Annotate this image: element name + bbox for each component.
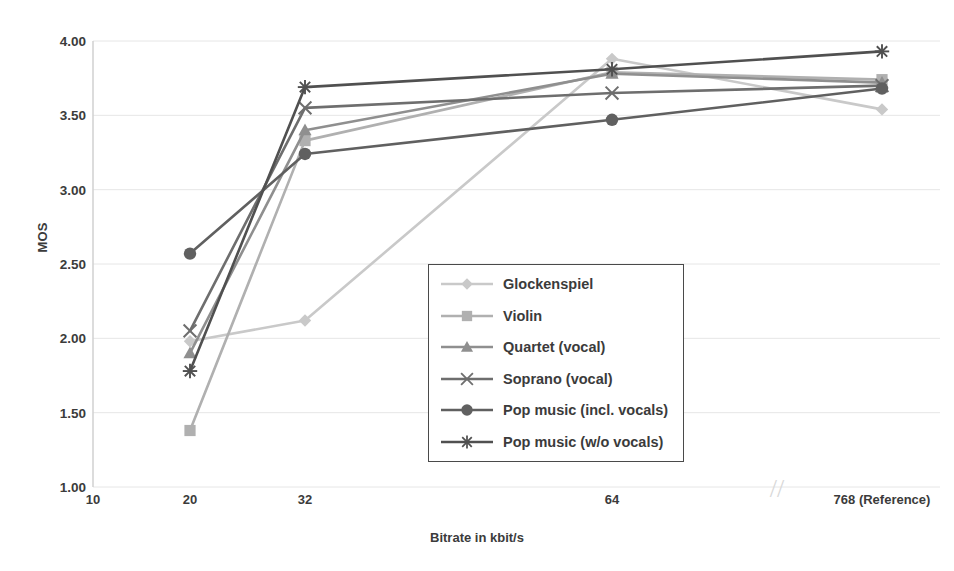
data-point-circle-marker	[606, 114, 618, 126]
axis-break-icon: //	[770, 474, 785, 503]
y-axis-tick-label: 2.50	[34, 257, 86, 272]
legend-item[interactable]: Glockenspiel	[439, 271, 593, 297]
y-axis-tick-label: 1.00	[34, 480, 86, 495]
legend-item-label: Violin	[503, 308, 542, 324]
legend-circle-icon	[439, 401, 495, 419]
y-axis-tick-label: 3.50	[34, 108, 86, 123]
data-point-asterisk-marker	[875, 44, 889, 58]
legend-item-label: Soprano (vocal)	[503, 371, 613, 387]
series-line	[184, 82, 888, 259]
data-point-diamond-marker	[876, 103, 888, 115]
x-axis-title: Bitrate in kbit/s	[0, 530, 954, 545]
x-axis-tick-label: 10	[86, 492, 100, 507]
data-point-circle-marker	[876, 82, 888, 94]
legend-triangle-icon	[439, 338, 495, 356]
legend-item-label: Pop music (w/o vocals)	[503, 434, 663, 450]
x-axis-tick-label: 32	[298, 492, 312, 507]
data-point-diamond-marker	[461, 278, 472, 289]
legend-item-label: Pop music (incl. vocals)	[503, 402, 668, 418]
y-axis-tick-label: 1.50	[34, 405, 86, 420]
legend-item[interactable]: Pop music (incl. vocals)	[439, 397, 668, 423]
legend-x-icon	[439, 370, 495, 388]
chart-legend: GlockenspielViolinQuartet (vocal)Soprano…	[428, 264, 684, 462]
data-point-asterisk-marker	[298, 80, 312, 94]
data-point-asterisk-marker	[183, 364, 197, 378]
legend-item[interactable]: Pop music (w/o vocals)	[439, 429, 663, 455]
chart-container: // MOS 1.001.502.002.503.003.504.00 1020…	[0, 0, 954, 571]
data-point-circle-marker	[299, 148, 311, 160]
legend-square-icon	[439, 307, 495, 325]
x-axis-tick-label: 768 (Reference)	[834, 492, 931, 507]
legend-asterisk-icon	[439, 433, 495, 451]
data-point-asterisk-marker	[460, 435, 473, 448]
y-axis-tick-label: 4.00	[34, 34, 86, 49]
legend-item[interactable]: Violin	[439, 303, 542, 329]
data-point-square-marker	[184, 425, 195, 436]
y-axis-tick-label: 3.00	[34, 182, 86, 197]
y-axis-tick-labels: 1.001.502.002.503.003.504.00	[26, 0, 86, 571]
legend-item[interactable]: Quartet (vocal)	[439, 334, 605, 360]
x-axis-tick-label: 64	[605, 492, 619, 507]
data-point-asterisk-marker	[605, 62, 619, 76]
legend-diamond-icon	[439, 275, 495, 293]
data-point-circle-marker	[184, 247, 196, 259]
legend-item-label: Quartet (vocal)	[503, 339, 605, 355]
data-point-square-marker	[462, 310, 472, 320]
x-axis-tick-label: 20	[183, 492, 197, 507]
legend-item-label: Glockenspiel	[503, 276, 593, 292]
y-axis-tick-label: 2.00	[34, 331, 86, 346]
data-point-circle-marker	[461, 404, 472, 415]
legend-item[interactable]: Soprano (vocal)	[439, 366, 613, 392]
